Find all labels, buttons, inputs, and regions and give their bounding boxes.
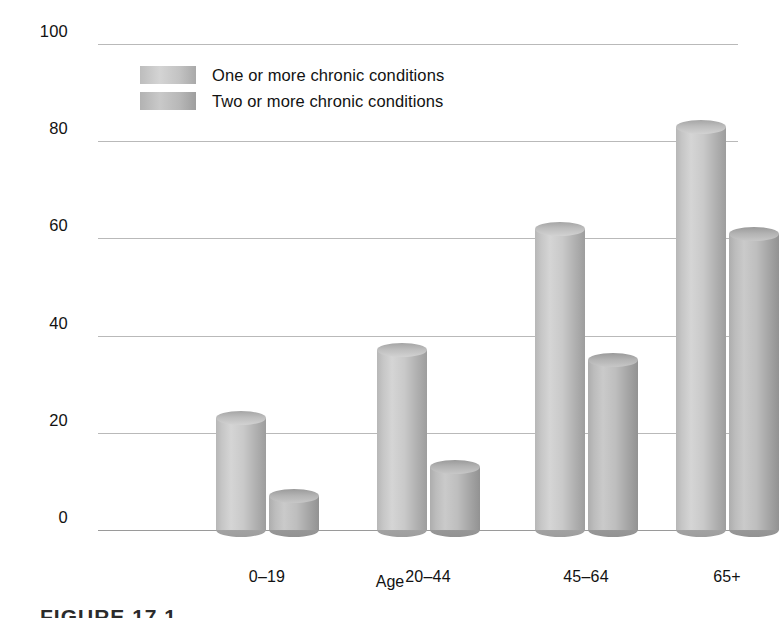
y-tick-label-60: 60 bbox=[12, 216, 68, 235]
bar-body bbox=[676, 127, 726, 530]
x-axis-title: Age bbox=[0, 573, 760, 591]
bar-top-ellipse bbox=[676, 120, 726, 134]
y-tick-label-80: 80 bbox=[12, 119, 68, 138]
bar-4564-series1 bbox=[535, 222, 585, 530]
bar-top-ellipse bbox=[588, 353, 638, 367]
gridline-60 bbox=[98, 238, 738, 239]
bar-2044-series1 bbox=[377, 343, 427, 530]
bar-top-ellipse bbox=[216, 411, 266, 425]
y-tick-label-20: 20 bbox=[12, 411, 68, 430]
bar-top-ellipse bbox=[535, 222, 585, 236]
bar-top-ellipse bbox=[377, 343, 427, 357]
legend-label-series2: Two or more chronic conditions bbox=[212, 92, 443, 111]
bar-65-series1 bbox=[676, 120, 726, 530]
bar-body bbox=[729, 234, 779, 530]
bar-019-series2 bbox=[269, 489, 319, 530]
gridline-100 bbox=[98, 44, 738, 45]
bar-body bbox=[377, 350, 427, 530]
y-tick-label-100: 100 bbox=[12, 22, 68, 41]
x-axis-title-text: Age bbox=[376, 573, 404, 590]
bar-body bbox=[535, 229, 585, 530]
chart-legend: One or more chronic conditions Two or mo… bbox=[140, 62, 444, 114]
bar-2044-series2 bbox=[430, 460, 480, 530]
legend-swatch-icon-series2 bbox=[140, 92, 196, 110]
bar-65-series2 bbox=[729, 227, 779, 530]
y-tick-label-0: 0 bbox=[12, 508, 68, 527]
y-tick-label-40: 40 bbox=[12, 314, 68, 333]
legend-label-series1: One or more chronic conditions bbox=[212, 66, 444, 85]
bar-019-series1 bbox=[216, 411, 266, 530]
bar-body bbox=[588, 360, 638, 530]
bar-top-ellipse bbox=[729, 227, 779, 241]
figure-caption: FIGURE 17.1 bbox=[40, 604, 177, 618]
legend-item-series2: Two or more chronic conditions bbox=[140, 88, 444, 114]
bar-top-ellipse bbox=[430, 460, 480, 474]
bar-body bbox=[430, 467, 480, 530]
gridline-40 bbox=[98, 336, 738, 337]
legend-swatch-icon-series1 bbox=[140, 66, 196, 84]
gridline-80 bbox=[98, 141, 738, 142]
bar-4564-series2 bbox=[588, 353, 638, 530]
legend-item-series1: One or more chronic conditions bbox=[140, 62, 444, 88]
bar-top-ellipse bbox=[269, 489, 319, 503]
bar-body bbox=[216, 418, 266, 530]
